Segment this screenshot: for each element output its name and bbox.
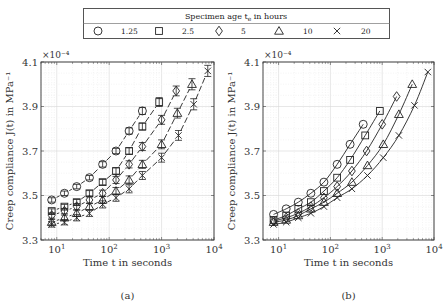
x-tick-label: 104 xyxy=(205,243,223,255)
y-tick-label: 3.5 xyxy=(244,190,260,201)
cross-marker xyxy=(349,186,355,192)
error-bar xyxy=(73,184,80,188)
error-bar xyxy=(61,191,68,195)
x-axis-label: Time t in seconds xyxy=(83,257,172,268)
y-tick-label: 3.9 xyxy=(244,101,260,112)
y-axis-label: Creep compliance J(t) in MPa⁻¹ xyxy=(226,72,237,230)
x-tick-label: 102 xyxy=(322,243,339,255)
x-tick-label: 102 xyxy=(101,243,118,255)
error-bar xyxy=(139,107,146,114)
y-tick-label: 3.3 xyxy=(22,235,38,246)
cross-marker xyxy=(380,154,386,160)
figure: Specimen age te in hours 1.252.551020 3.… xyxy=(0,0,446,306)
x-tick-label: 104 xyxy=(425,243,443,255)
x-tick-label: 101 xyxy=(270,243,287,255)
series-square xyxy=(270,108,383,224)
data-point xyxy=(349,186,355,192)
grid xyxy=(263,62,434,240)
cross-marker xyxy=(364,172,370,178)
y-tick-label: 3.7 xyxy=(22,146,38,157)
y-tick-label: 3.5 xyxy=(22,190,38,201)
data-point xyxy=(425,69,431,75)
series-triangle xyxy=(47,79,196,226)
legend: Specimen age te in hours 1.252.551020 xyxy=(84,9,390,39)
cross-marker xyxy=(425,69,431,75)
legend-label: 2.5 xyxy=(182,27,194,36)
legend-label: 20 xyxy=(361,27,371,36)
data-point xyxy=(393,92,400,102)
y-tick-label: 4.1 xyxy=(244,57,260,68)
x-axis-label: Time t in seconds xyxy=(304,257,393,268)
y-axis-label: Creep compliance J(t) in MPa⁻¹ xyxy=(4,72,15,230)
data-point xyxy=(408,80,417,88)
series-circle xyxy=(48,107,147,204)
data-point xyxy=(396,132,402,138)
triangle-marker xyxy=(408,80,417,88)
error-bar xyxy=(139,143,146,151)
cross-marker xyxy=(411,102,417,108)
diamond-marker xyxy=(393,92,400,102)
panel-a: 3.33.53.73.94.1×10⁻⁴101102103104Time t i… xyxy=(4,50,223,301)
y-tick-label: 4.1 xyxy=(22,57,38,68)
legend-label: 1.25 xyxy=(121,27,138,36)
error-bar xyxy=(86,175,93,179)
series-diamond xyxy=(270,92,400,226)
legend-label: 5 xyxy=(241,27,246,36)
series-circle xyxy=(270,120,368,218)
error-bar xyxy=(113,176,120,183)
grid xyxy=(41,62,214,240)
x-tick-label: 103 xyxy=(153,243,170,255)
data-point xyxy=(364,172,370,178)
error-bar xyxy=(173,86,180,96)
panel-caption: (b) xyxy=(341,290,355,301)
x-tick-label: 103 xyxy=(374,243,391,255)
data-point xyxy=(380,154,386,160)
series-triangle xyxy=(269,80,416,226)
legend-label: 10 xyxy=(303,27,313,36)
y-multiplier: ×10⁻⁴ xyxy=(42,50,70,60)
y-multiplier: ×10⁻⁴ xyxy=(264,50,292,60)
legend-title: Specimen age te in hours xyxy=(185,12,287,22)
data-point xyxy=(411,102,417,108)
x-tick-label: 101 xyxy=(48,243,65,255)
error-bar xyxy=(99,179,106,184)
panel-caption: (a) xyxy=(121,290,135,301)
error-bar xyxy=(139,123,146,130)
panel-b: 3.33.53.73.94.1×10⁻⁴101102103104Time t i… xyxy=(226,50,443,301)
cross-marker xyxy=(396,132,402,138)
y-tick-label: 3.3 xyxy=(244,235,260,246)
y-tick-label: 3.9 xyxy=(22,101,38,112)
error-bar xyxy=(99,162,106,167)
y-tick-label: 3.7 xyxy=(244,146,260,157)
